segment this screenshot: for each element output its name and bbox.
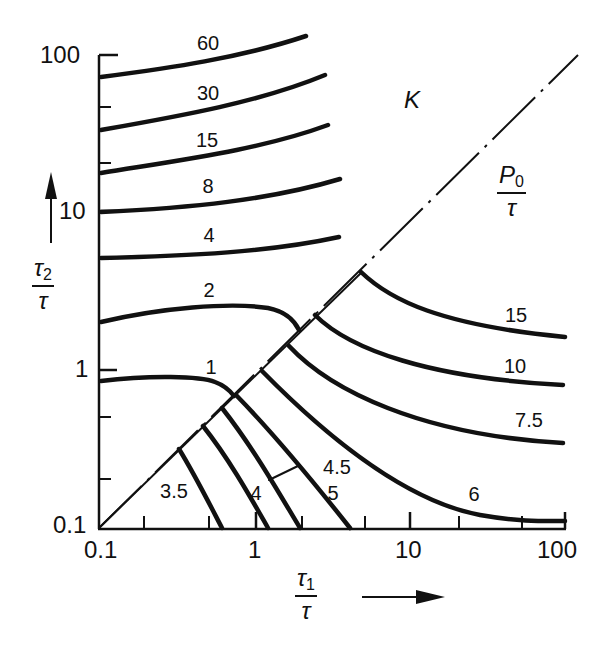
curve-label-1: 30 bbox=[197, 83, 219, 103]
y-tick-label-0: 100 bbox=[40, 43, 80, 67]
k-region-label: K bbox=[404, 88, 420, 112]
curve-label-12: 4.5 bbox=[323, 457, 351, 477]
curve-k-8 bbox=[101, 179, 340, 212]
x-label-numerator: τ1 bbox=[295, 566, 317, 597]
leader-line-4.5 bbox=[269, 465, 300, 480]
k-curves bbox=[101, 36, 340, 396]
y-tick-label-3: 0.1 bbox=[53, 513, 86, 537]
curve-label-2: 15 bbox=[196, 130, 218, 150]
y-arrow-head bbox=[45, 172, 57, 199]
curve-k-2 bbox=[101, 306, 299, 330]
x-tick-label-2: 10 bbox=[395, 538, 422, 562]
y-label-denominator: τ bbox=[38, 287, 47, 313]
y-axis-label: τ2 τ bbox=[32, 256, 54, 313]
curve-label-0: 60 bbox=[197, 33, 219, 53]
p0-tau-label: P0 τ bbox=[497, 163, 526, 220]
curve-k-4 bbox=[101, 237, 339, 258]
curve-label-3: 8 bbox=[202, 176, 213, 196]
x-label-denominator: τ bbox=[301, 597, 310, 623]
curve-k-1 bbox=[101, 377, 234, 396]
y-tick-label-2: 1 bbox=[75, 357, 88, 381]
x-tick-label-3: 100 bbox=[537, 538, 577, 562]
curve-label-10: 6 bbox=[468, 484, 479, 504]
curve-label-7: 15 bbox=[505, 305, 527, 325]
curve-label-6: 1 bbox=[205, 357, 216, 377]
x-axis-label: τ1 τ bbox=[295, 566, 317, 623]
y-tick-label-1: 10 bbox=[59, 199, 86, 223]
p0-label-numerator: P0 bbox=[497, 163, 526, 194]
curve-label-13: 4 bbox=[250, 483, 261, 503]
curve-label-14: 3.5 bbox=[160, 481, 188, 501]
curve-p0-15 bbox=[361, 272, 565, 337]
curve-label-8: 10 bbox=[504, 356, 526, 376]
x-tick-label-0: 0.1 bbox=[84, 538, 117, 562]
curve-p0-6 bbox=[262, 371, 565, 521]
curve-label-5: 2 bbox=[203, 280, 214, 300]
curve-label-4: 4 bbox=[203, 225, 214, 245]
x-arrow-head bbox=[416, 590, 445, 604]
curve-label-9: 7.5 bbox=[515, 410, 543, 430]
curve-label-11: 5 bbox=[327, 483, 338, 503]
x-tick-label-1: 1 bbox=[248, 538, 261, 562]
y-label-numerator: τ2 bbox=[32, 256, 54, 287]
p0-label-denominator: τ bbox=[507, 194, 516, 220]
